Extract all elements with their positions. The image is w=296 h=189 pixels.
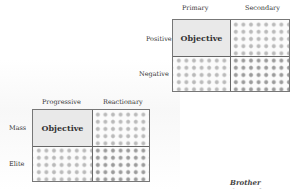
- col-header-reactionary: Reactionary: [103, 98, 143, 106]
- bottom-objective-cell: Objective: [33, 110, 92, 146]
- bottom-reactionary-mass-cell: [92, 110, 149, 146]
- bottom-horizontal-divider: [33, 146, 149, 147]
- col-header-progressive: Progressive: [42, 98, 81, 106]
- row-header-positive: Positive: [146, 35, 172, 43]
- signature: Brother Omowale: [230, 178, 296, 189]
- row-header-mass: Mass: [9, 124, 26, 132]
- bottom-grid: Objective: [32, 109, 150, 182]
- bottom-reactionary-elite-cell: [92, 146, 149, 181]
- top-primary-negative-cell: [173, 56, 230, 91]
- top-secondary-negative-cell: [230, 56, 289, 91]
- top-grid: Objective: [172, 19, 290, 92]
- row-header-negative: Negative: [139, 70, 169, 78]
- col-header-primary: Primary: [182, 4, 208, 12]
- top-horizontal-divider: [173, 56, 289, 57]
- top-secondary-positive-cell: [230, 20, 289, 56]
- col-header-secondary: Secondary: [245, 4, 280, 12]
- top-objective-cell: Objective: [173, 20, 230, 56]
- row-header-elite: Elite: [9, 160, 24, 168]
- bottom-progressive-elite-cell: [33, 146, 92, 181]
